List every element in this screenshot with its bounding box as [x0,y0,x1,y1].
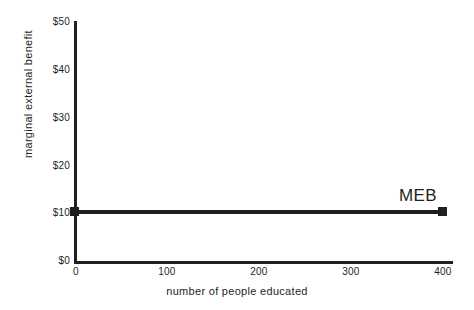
chart-canvas: $50 $40 $30 $20 $10 $0 0 100 200 300 400… [0,0,474,310]
meb-marker-start [70,207,79,216]
x-tick-0: 0 [46,266,106,277]
meb-series-line [75,210,443,214]
meb-series-label: MEB [399,186,437,206]
x-tick-400: 400 [413,266,473,277]
meb-marker-end [438,207,447,216]
x-tick-300: 300 [321,266,381,277]
x-axis-line [74,261,453,264]
x-axis-title: number of people educated [0,285,474,297]
y-axis-title: marginal external benefit [22,0,34,194]
x-tick-100: 100 [137,266,197,277]
y-axis-title-holder: marginal external benefit [14,0,36,264]
y-axis-line [74,21,77,264]
x-tick-200: 200 [229,266,289,277]
